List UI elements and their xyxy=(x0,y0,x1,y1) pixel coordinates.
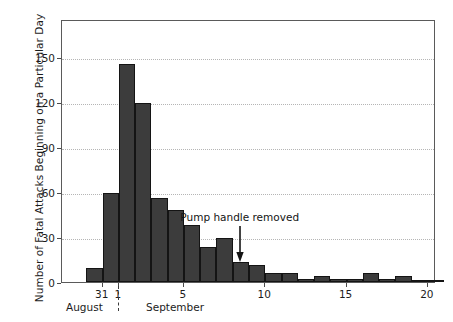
bar xyxy=(86,268,102,282)
x-axis-tick-mark xyxy=(346,283,347,287)
gridline xyxy=(62,59,434,60)
bar xyxy=(249,265,265,282)
y-axis-tick-label: 150 xyxy=(0,52,55,64)
plot-area xyxy=(61,20,435,283)
bar xyxy=(379,279,395,282)
bar xyxy=(216,238,232,282)
bar xyxy=(412,280,428,282)
bar xyxy=(119,64,135,282)
bar xyxy=(298,279,314,282)
y-axis-tick-label: 120 xyxy=(0,97,55,109)
bar xyxy=(103,193,119,282)
x-axis-group-label-august: August xyxy=(66,301,103,313)
x-axis-group-label-september: September xyxy=(146,301,204,313)
y-axis-tick-label: 30 xyxy=(0,232,55,244)
bar xyxy=(395,276,411,282)
bar xyxy=(200,247,216,282)
bar xyxy=(314,276,330,282)
x-axis-tick-label: 5 xyxy=(163,288,203,300)
x-axis-tick-mark xyxy=(264,283,265,287)
bar xyxy=(233,262,249,282)
x-axis-tick-mark xyxy=(427,283,428,287)
chart-figure: Number of Fatal Attacks Beginning on a P… xyxy=(0,0,453,322)
bar xyxy=(347,279,363,282)
gridline xyxy=(62,104,434,105)
y-axis-tick-label: 0 xyxy=(0,277,55,289)
bar xyxy=(184,225,200,282)
month-divider xyxy=(118,286,119,311)
x-axis-tick-mark xyxy=(183,283,184,287)
bar xyxy=(151,198,167,282)
y-axis-tick-label: 60 xyxy=(0,187,55,199)
gridline xyxy=(62,149,434,150)
bar xyxy=(282,273,298,282)
y-axis-tick-mark xyxy=(57,283,61,284)
y-axis-tick-label: 90 xyxy=(0,142,55,154)
x-axis-tick-label: 15 xyxy=(326,288,366,300)
bar xyxy=(363,273,379,282)
x-axis-tick-mark xyxy=(102,283,103,287)
x-axis-tick-label: 10 xyxy=(244,288,284,300)
bar xyxy=(265,273,281,282)
bar xyxy=(428,280,444,282)
bar xyxy=(135,103,151,282)
annotation-arrow-down-icon xyxy=(235,226,245,262)
annotation-pump-handle-removed: Pump handle removed xyxy=(180,211,299,223)
bar xyxy=(330,279,346,282)
x-axis-tick-label: 20 xyxy=(407,288,447,300)
